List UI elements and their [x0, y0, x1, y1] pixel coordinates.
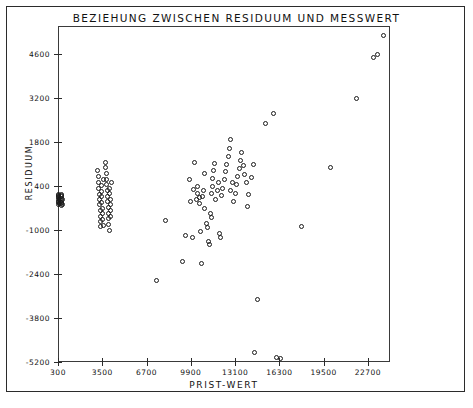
data-point — [255, 297, 260, 302]
data-point — [99, 200, 104, 205]
data-point — [228, 137, 233, 142]
data-point — [354, 96, 359, 101]
data-point — [213, 197, 218, 202]
data-point — [99, 189, 104, 194]
data-point — [108, 197, 113, 202]
data-point — [245, 204, 250, 209]
y-axis-label: RESIDUUM — [25, 128, 34, 218]
data-point — [210, 184, 215, 189]
x-axis-tick — [102, 358, 103, 366]
x-axis-tick-label: 6700 — [136, 368, 157, 377]
data-point — [218, 235, 223, 240]
x-axis-label: PRIST-WERT — [58, 380, 390, 390]
data-point — [107, 191, 112, 196]
y-axis-tick-label: 3200 — [29, 94, 50, 103]
data-point — [239, 150, 244, 155]
data-point — [198, 229, 203, 234]
data-point — [205, 225, 210, 230]
data-point — [154, 278, 159, 283]
data-point — [106, 222, 111, 227]
data-point — [190, 235, 195, 240]
y-axis-tick — [54, 54, 62, 55]
chart-figure: BEZIEHUNG ZWISCHEN RESIDUUM UND MESSWERT… — [0, 0, 473, 408]
data-point — [235, 174, 240, 179]
data-point — [104, 171, 109, 176]
data-point — [234, 182, 239, 187]
y-axis-tick-label: -5200 — [26, 358, 50, 367]
data-point — [101, 223, 106, 228]
data-point — [107, 228, 112, 233]
data-point — [107, 186, 112, 191]
data-point — [299, 224, 304, 229]
data-point — [95, 168, 100, 173]
data-point — [108, 202, 113, 207]
y-axis-tick — [54, 186, 62, 187]
data-point — [109, 180, 114, 185]
data-point — [242, 172, 247, 177]
data-point — [192, 160, 197, 165]
data-point — [244, 180, 249, 185]
y-axis-tick-label: 400 — [34, 182, 50, 191]
data-point — [100, 206, 105, 211]
data-point — [246, 192, 251, 197]
data-point — [215, 188, 220, 193]
data-point — [201, 188, 206, 193]
data-point — [60, 197, 65, 202]
x-axis-tick — [324, 358, 325, 366]
data-point — [216, 180, 221, 185]
data-point — [231, 199, 236, 204]
data-point — [202, 206, 207, 211]
data-point — [226, 154, 231, 159]
data-point — [100, 217, 105, 222]
x-axis-tick-label: 13100 — [222, 368, 248, 377]
data-point — [199, 261, 204, 266]
data-point — [219, 193, 224, 198]
y-axis-tick — [54, 274, 62, 275]
y-axis-tick-label: -1000 — [26, 226, 50, 235]
data-point — [211, 168, 216, 173]
data-point — [233, 191, 238, 196]
y-axis-tick — [54, 318, 62, 319]
data-point — [212, 161, 217, 166]
x-axis-tick — [235, 358, 236, 366]
x-axis-tick — [147, 358, 148, 366]
x-axis-tick — [279, 358, 280, 366]
y-axis-tick-label: -2400 — [26, 270, 50, 279]
y-axis-tick — [54, 98, 62, 99]
y-axis-tick-label: 4600 — [29, 50, 50, 59]
data-point — [209, 215, 214, 220]
chart-title: BEZIEHUNG ZWISCHEN RESIDUUM UND MESSWERT — [0, 12, 473, 24]
data-point — [103, 160, 108, 165]
data-point — [99, 183, 104, 188]
data-point — [197, 201, 202, 206]
data-point — [381, 33, 386, 38]
data-point — [188, 199, 193, 204]
data-point — [220, 186, 225, 191]
x-axis-tick-label: 16300 — [266, 368, 292, 377]
x-axis-tick — [58, 358, 59, 366]
data-point — [222, 177, 227, 182]
x-axis-tick-label: 3500 — [92, 368, 113, 377]
y-axis-tick-label: -3800 — [26, 314, 50, 323]
data-point — [251, 162, 256, 167]
data-point — [249, 175, 254, 180]
data-point — [187, 177, 192, 182]
data-point — [271, 111, 276, 116]
y-axis-tick — [54, 142, 62, 143]
data-point — [223, 169, 228, 174]
data-point — [241, 163, 246, 168]
data-point — [227, 146, 232, 151]
data-point — [180, 259, 185, 264]
data-point — [224, 162, 229, 167]
scatter-plot-canvas — [58, 26, 390, 362]
data-point — [100, 211, 105, 216]
x-axis-tick-label: 300 — [50, 368, 66, 377]
x-axis-tick-label: 22700 — [355, 368, 381, 377]
data-point — [209, 191, 214, 196]
data-point — [195, 184, 200, 189]
data-point — [108, 214, 113, 219]
x-axis-tick — [191, 358, 192, 366]
data-point — [108, 208, 113, 213]
data-point — [60, 202, 65, 207]
data-point — [183, 233, 188, 238]
